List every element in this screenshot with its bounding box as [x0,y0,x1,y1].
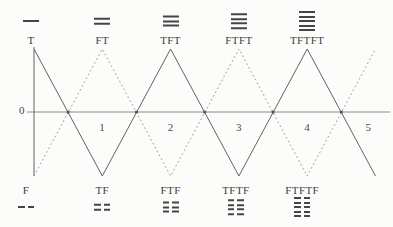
yin-line-stack [163,202,179,213]
yang-line [299,20,315,22]
yin-line [94,208,110,210]
yin-line [228,199,244,201]
axis-tick-label: 5 [366,122,372,133]
yin-line [294,215,310,217]
yin-line [294,197,310,199]
yin-line [163,211,179,213]
yang-line [231,18,247,20]
yang-line-stack [299,11,315,31]
yang-line [299,25,315,27]
yin-line-stack [18,206,34,208]
sequence-label-top: FT [95,35,109,46]
yin-line [94,204,110,206]
yang-line [163,16,179,18]
sequence-label-bottom: TFTF [222,185,249,196]
sequence-label-top: FTFT [225,35,252,46]
yang-line [299,16,315,18]
yang-line [94,18,110,20]
yang-line [231,27,247,29]
yang-line-stack [231,13,247,29]
sequence-label-bottom: FTF [161,185,181,196]
yin-line-stack [94,204,110,211]
sequence-label-bottom: F [23,185,30,196]
yang-line [299,29,315,31]
yang-line-stack [94,18,110,25]
yang-line [231,22,247,24]
yin-line [294,202,310,204]
sequence-label-bottom: TF [95,185,109,196]
sequence-label-top: TFTFT [290,35,324,46]
yang-line [231,13,247,15]
yin-line [228,204,244,206]
yin-line [18,206,34,208]
yin-line [294,206,310,208]
labels-layer: 0 12345TFTTFTFTFTTFTFTFTFFTFTFTFFTFTF [0,0,393,227]
yin-line-stack [294,197,310,217]
yang-line [163,20,179,22]
yin-line [163,202,179,204]
sequence-label-bottom: FTFTF [285,185,319,196]
truth-revision-figure: 0 12345TFTTFTFTFTTFTFTFTFFTFTFTFFTFTF [0,0,393,227]
yang-line-stack [163,16,179,27]
yang-line [23,20,39,22]
yin-line [163,206,179,208]
yin-line [228,213,244,215]
yin-line [294,211,310,213]
sequence-label-top: TFT [160,35,181,46]
yin-line [228,208,244,210]
yang-line [163,25,179,27]
axis-origin-label: 0 [19,105,25,116]
yang-line [299,11,315,13]
yang-line-stack [23,20,39,22]
axis-tick-label: 2 [168,122,174,133]
yang-line [94,22,110,24]
axis-tick-label: 4 [304,122,310,133]
sequence-label-top: T [27,35,34,46]
axis-tick-label: 3 [236,122,242,133]
axis-tick-label: 1 [99,122,105,133]
yin-line-stack [228,199,244,215]
